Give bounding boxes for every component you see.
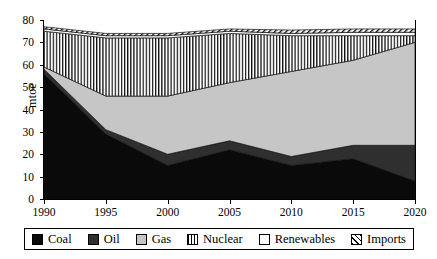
chart-figure: mtoe 01020304050607080 19901995200020052… bbox=[0, 0, 437, 259]
plot-area: mtoe 01020304050607080 19901995200020052… bbox=[0, 0, 437, 216]
legend-label-gas: Gas bbox=[152, 233, 171, 245]
legend-item-nuclear: Nuclear bbox=[187, 233, 243, 245]
right-axis-line bbox=[415, 20, 416, 200]
stacked-area-plot bbox=[0, 0, 437, 216]
legend-label-imports: Imports bbox=[367, 233, 406, 245]
legend-swatch-renewables bbox=[259, 234, 270, 245]
legend-swatch-nuclear bbox=[187, 234, 198, 245]
legend-item-gas: Gas bbox=[136, 233, 171, 245]
legend-item-imports: Imports bbox=[351, 233, 406, 245]
legend-item-oil: Oil bbox=[88, 233, 120, 245]
legend-item-coal: Coal bbox=[32, 233, 72, 245]
legend-label-coal: Coal bbox=[48, 233, 72, 245]
y-axis-line bbox=[43, 20, 44, 200]
legend-label-nuclear: Nuclear bbox=[203, 233, 243, 245]
legend-swatch-coal bbox=[32, 234, 43, 245]
legend-label-renewables: Renewables bbox=[275, 233, 335, 245]
legend-swatch-oil bbox=[88, 234, 99, 245]
chart-legend: Coal Oil Gas Nuclear Renewables Imports bbox=[24, 228, 414, 250]
legend-item-renewables: Renewables bbox=[259, 233, 335, 245]
x-axis-line bbox=[43, 199, 416, 200]
legend-label-oil: Oil bbox=[104, 233, 120, 245]
legend-swatch-gas bbox=[136, 234, 147, 245]
legend-swatch-imports bbox=[351, 234, 362, 245]
